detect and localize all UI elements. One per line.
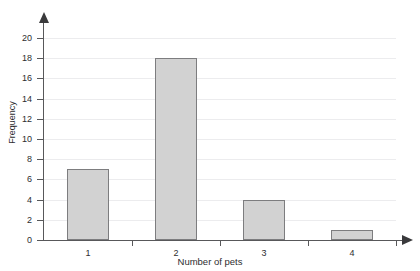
gridline [44, 139, 396, 140]
x-axis-tick [396, 241, 397, 246]
gridline [44, 58, 396, 59]
gridline [44, 38, 396, 39]
y-axis-line [43, 22, 44, 241]
y-axis-tick-label: 6 [0, 175, 32, 184]
chart-title [0, 0, 420, 4]
gridline [44, 119, 396, 120]
bar [331, 230, 373, 240]
bar [155, 58, 197, 240]
y-axis-tick-label: 2 [0, 216, 32, 225]
gridline [44, 159, 396, 160]
y-axis-arrow-icon [39, 12, 49, 23]
x-axis-line [43, 240, 403, 241]
bar-chart: 02468101214161820 1234 Frequency Number … [0, 0, 420, 271]
x-axis-tick [132, 241, 133, 246]
y-axis-title: Frequency [8, 83, 17, 163]
bar [67, 169, 109, 240]
gridline [44, 99, 396, 100]
y-axis-tick-label: 4 [0, 196, 32, 205]
y-axis-tick-label: 0 [0, 236, 32, 245]
x-axis-tick [220, 241, 221, 246]
x-axis-arrow-icon [402, 235, 413, 245]
y-axis-tick-label: 20 [0, 34, 32, 43]
x-axis-title: Number of pets [0, 257, 420, 267]
y-axis-tick-label: 18 [0, 54, 32, 63]
bar [243, 200, 285, 240]
x-axis-tick [308, 241, 309, 246]
gridline [44, 78, 396, 79]
